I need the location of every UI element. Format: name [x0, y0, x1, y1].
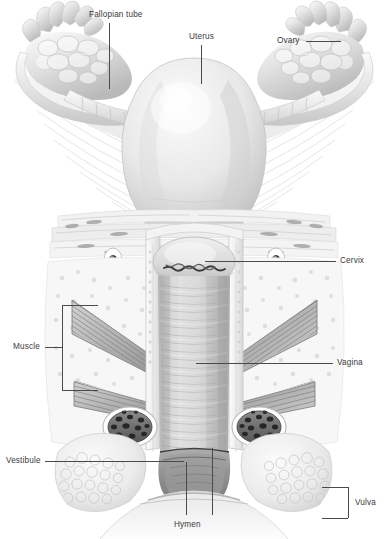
label-vestibule: Vestibule [6, 457, 41, 465]
label-vagina: Vagina [337, 359, 363, 367]
label-cervix: Cervix [340, 257, 364, 265]
label-hymen: Hymen [174, 521, 201, 529]
label-ovary: Ovary [277, 37, 300, 45]
label-muscle: Muscle [13, 343, 40, 351]
label-vulva: Vulva [355, 499, 376, 507]
label-fallopian-tube: Fallopian tube [89, 11, 143, 19]
label-uterus: Uterus [189, 33, 214, 41]
anatomy-illustration [0, 0, 389, 539]
anatomy-figure: Fallopian tube Uterus Ovary Cervix Muscl… [0, 0, 389, 539]
